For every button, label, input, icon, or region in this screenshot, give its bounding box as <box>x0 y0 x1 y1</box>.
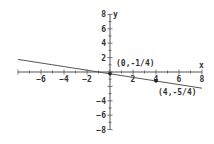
point-label: (0,-1/4) <box>116 59 155 68</box>
data-point <box>154 79 158 83</box>
line-plot: −6−4−224688642−4−6−8xy(0,-1/4)(4,-5/4) <box>0 0 214 144</box>
y-tick-label: 4 <box>101 39 106 48</box>
y-tick-label: −4 <box>96 97 106 106</box>
x-axis-label: x <box>199 61 204 70</box>
x-tick-label: −2 <box>82 75 92 84</box>
x-tick-label: 2 <box>131 75 136 84</box>
y-tick-label: 2 <box>101 54 106 63</box>
data-point <box>108 72 112 76</box>
x-tick-label: −6 <box>36 75 46 84</box>
x-tick-label: 6 <box>177 75 182 84</box>
y-tick-label: −8 <box>96 126 106 135</box>
y-tick-label: 6 <box>101 25 106 34</box>
point-label: (4,-5/4) <box>158 88 197 97</box>
x-tick-label: −4 <box>59 75 69 84</box>
y-tick-label: 8 <box>101 10 106 19</box>
y-axis-label: y <box>113 10 118 19</box>
y-tick-label: −6 <box>96 111 106 120</box>
x-tick-label: 8 <box>200 75 205 84</box>
